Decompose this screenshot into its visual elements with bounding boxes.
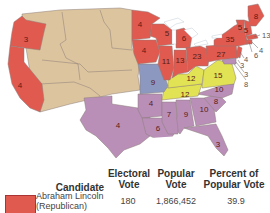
- callout-label-delaware: 3: [240, 61, 244, 70]
- state-label-oregon: 3: [24, 35, 29, 44]
- state-label-pennsylvania: 27: [217, 50, 226, 59]
- state-label-vermont: 5: [238, 23, 243, 32]
- callout-label-new-jersey: 4: [244, 55, 248, 64]
- candidate-label: Abraham Lincoln (Republican): [36, 191, 104, 211]
- header-popular-vote: Popular Vote: [154, 168, 198, 190]
- state-label-virginia: 15: [214, 71, 223, 80]
- callout-label-massachusetts: 13: [262, 31, 270, 40]
- popular-vote-value: 1,866,452: [150, 196, 202, 206]
- state-label-louisiana: 6: [156, 124, 161, 133]
- header-electoral-vote: Electoral Vote: [106, 168, 152, 190]
- state-label-tennessee: 12: [181, 90, 190, 99]
- state-label-mississippi: 7: [167, 110, 172, 119]
- state-label-alabama: 9: [184, 110, 189, 119]
- state-label-kentucky: 12: [187, 74, 196, 83]
- great-lakes: [164, 18, 222, 46]
- electoral-vote-value: 180: [108, 196, 148, 206]
- candidate-party: (Republican): [36, 201, 104, 211]
- state-label-california: 4: [18, 81, 23, 90]
- state-label-new-hampshire: 5: [244, 26, 249, 35]
- callout-leader-rhode-island: [252, 42, 258, 48]
- state-label-indiana: 13: [176, 56, 185, 65]
- state-label-ohio: 23: [193, 52, 202, 61]
- state-label-south-carolina: 8: [214, 97, 219, 106]
- gulf-of-mexico: [140, 134, 216, 160]
- callout-label-maryland: 8: [244, 80, 248, 89]
- percent-value: 39.9: [206, 196, 266, 206]
- state-label-texas: 4: [116, 121, 121, 130]
- state-label-missouri: 9: [151, 78, 156, 87]
- election-map-1860: 3444456111323273555891212151081097643 13…: [0, 0, 270, 160]
- state-label-new-york: 35: [226, 35, 235, 44]
- state-label-florida: 3: [216, 140, 221, 149]
- callout-label-rhode-island: 4: [259, 46, 263, 55]
- state-label-north-carolina: 10: [215, 85, 224, 94]
- state-label-iowa: 4: [142, 46, 147, 55]
- state-new-jersey[interactable]: [236, 46, 242, 58]
- state-label-wisconsin: 5: [165, 29, 170, 38]
- state-label-illinois: 11: [162, 57, 171, 66]
- legend-swatch-republican: [5, 195, 36, 213]
- state-label-minnesota: 4: [138, 20, 143, 29]
- callout-label-connecticut: 6: [254, 51, 258, 60]
- candidate-name: Abraham Lincoln: [36, 191, 104, 201]
- state-label-georgia: 10: [200, 105, 209, 114]
- state-label-michigan: 6: [182, 34, 187, 43]
- callout-label-maryland-a: 3: [244, 70, 248, 79]
- state-label-arkansas: 4: [149, 99, 154, 108]
- header-percent-popular-vote: Percent of Popular Vote: [198, 168, 270, 190]
- state-label-maine: 8: [254, 12, 259, 21]
